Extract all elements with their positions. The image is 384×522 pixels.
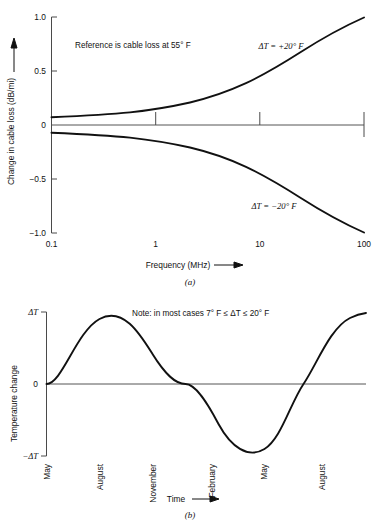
x-tick-label-1: 0.1 [46, 239, 58, 249]
y-tick-label-4: −0.5 [29, 174, 46, 184]
upper-curve-label: ΔT = +20° F [258, 41, 305, 51]
chart-b-x-tick-label-3: November [148, 464, 158, 503]
chart-a-y-axis-title-group: Change in cable loss (dB/mi) [6, 38, 17, 185]
right-arrow-icon [234, 262, 243, 268]
y-tick-label-5: −1.0 [29, 228, 46, 238]
curve-delta-t-minus-20 [52, 133, 365, 233]
curve-delta-t-plus-20 [52, 18, 365, 118]
caption-b: (b) [185, 510, 196, 520]
x-tick-label-3: 10 [255, 239, 265, 249]
up-arrow-icon [11, 38, 17, 48]
x-tick-label-2: 1 [153, 239, 158, 249]
chart-b-x-tick-label-6: August [317, 463, 327, 490]
figure-panel-a: 1.0 0.5 0 −0.5 −1.0 0.1 1 10 100 Change … [0, 0, 384, 292]
chart-b-x-tick-label-1: May [42, 463, 52, 480]
chart-a-y-axis-title: Change in cable loss (dB/mi) [6, 78, 16, 185]
figure-panel-b: ΔT 0 −ΔT Note: in most cases 7° F ≤ ΔT ≤… [0, 292, 384, 522]
chart-b-y-tick-label-2: 0 [33, 379, 38, 389]
chart-a-x-axis-title: Frequency (MHz) [146, 260, 211, 270]
chart-b-x-tick-label-4: February [207, 463, 217, 497]
y-tick-label-3: 0 [41, 120, 46, 130]
chart-b-x-tick-label-5: May [259, 463, 269, 480]
chart-b-y-tick-label-1: ΔT [27, 307, 39, 317]
figure-root: 1.0 0.5 0 −0.5 −1.0 0.1 1 10 100 Change … [0, 0, 384, 522]
y-tick-label-2: 0.5 [34, 66, 46, 76]
caption-a: (a) [185, 277, 196, 287]
y-tick-label-1: 1.0 [34, 12, 46, 22]
reference-note-label: Reference is cable loss at 55° F [75, 41, 191, 50]
chart-b-svg: ΔT 0 −ΔT Note: in most cases 7° F ≤ ΔT ≤… [0, 292, 384, 522]
x-tick-label-4: 100 [357, 239, 371, 249]
chart-a-x-axis-title-group: Frequency (MHz) [146, 260, 243, 270]
chart-a-svg: 1.0 0.5 0 −0.5 −1.0 0.1 1 10 100 Change … [0, 0, 384, 292]
temperature-range-note: Note: in most cases 7° F ≤ ΔT ≤ 20° F [132, 309, 269, 318]
lower-curve-label: ΔT = −20° F [251, 201, 298, 211]
chart-b-y-axis-title: Temperature change [9, 365, 19, 442]
curve-temperature-change [47, 313, 367, 453]
chart-b-x-axis-title: Time [167, 494, 186, 504]
chart-b-x-tick-label-2: August [95, 463, 105, 490]
chart-b-y-tick-label-3: −ΔT [22, 451, 39, 461]
